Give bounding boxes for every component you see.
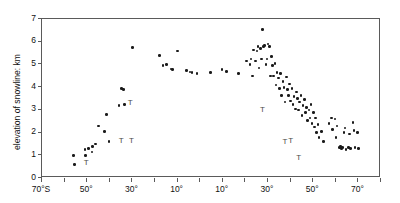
data-point: [317, 123, 320, 126]
data-point: [263, 44, 266, 47]
data-point: [352, 121, 355, 124]
data-point: [269, 75, 272, 78]
data-point: [158, 54, 161, 57]
tee-marker: T: [288, 137, 293, 145]
tee-marker: T: [84, 159, 89, 167]
data-point: [331, 128, 334, 131]
data-point: [292, 103, 295, 106]
data-point: [165, 63, 168, 66]
data-point: [270, 55, 273, 58]
x-tick: [357, 178, 358, 182]
data-point: [103, 130, 106, 133]
data-point: [318, 136, 321, 139]
data-point: [322, 140, 325, 143]
data-point: [171, 68, 174, 71]
x-tick: [312, 178, 313, 182]
tee-marker: T: [129, 137, 134, 145]
x-tick: [244, 178, 245, 182]
data-point: [252, 49, 255, 52]
data-point: [294, 108, 297, 111]
data-point: [282, 80, 285, 83]
x-tick: [267, 178, 268, 182]
data-point: [123, 103, 126, 106]
plot-frame: [41, 18, 380, 177]
x-tick: [177, 178, 178, 182]
tee-marker: T: [128, 99, 133, 107]
data-point: [122, 88, 125, 91]
x-tick: [199, 178, 200, 182]
data-point: [288, 83, 291, 86]
x-tick: [86, 178, 87, 182]
data-point: [320, 130, 323, 133]
x-tick-label: 70°S: [27, 184, 55, 194]
snowline-latitude-scatter-figure: elevation of snowline: km 01234567 70°S5…: [0, 0, 400, 203]
y-tick: [38, 132, 42, 133]
y-tick: [38, 41, 42, 42]
x-tick-label: 30°: [117, 184, 145, 194]
x-tick-label: 70°: [343, 184, 371, 194]
data-point: [118, 104, 121, 107]
x-tick: [41, 178, 42, 182]
data-point: [221, 68, 224, 71]
data-point: [314, 117, 317, 120]
data-point: [353, 129, 356, 132]
data-point: [335, 136, 338, 139]
x-tick-label: 10°: [208, 184, 236, 194]
data-point: [287, 94, 290, 97]
data-point: [306, 119, 309, 122]
data-point: [312, 111, 315, 114]
data-point: [108, 140, 111, 143]
data-point: [296, 97, 299, 100]
data-point: [261, 28, 264, 31]
y-tick: [38, 154, 42, 155]
y-tick: [38, 109, 42, 110]
data-point: [259, 47, 262, 50]
x-tick-label: 30°: [253, 184, 281, 194]
x-tick: [335, 178, 336, 182]
data-point: [279, 72, 282, 75]
y-tick-label: 4: [27, 81, 36, 91]
data-point: [97, 125, 100, 128]
x-tick: [290, 178, 291, 182]
data-point: [209, 71, 212, 74]
y-tick-label: 2: [27, 126, 36, 136]
data-point: [94, 143, 97, 146]
x-tick: [109, 178, 110, 182]
y-tick-label: 1: [27, 149, 36, 159]
x-tick-label: 10°: [163, 184, 191, 194]
data-point: [105, 113, 108, 116]
data-point: [72, 154, 75, 157]
data-point: [283, 86, 286, 89]
tee-marker: T: [283, 138, 288, 146]
y-tick-label: 6: [27, 35, 36, 45]
y-tick: [38, 63, 42, 64]
x-tick: [380, 178, 381, 182]
data-point: [343, 131, 346, 134]
data-point: [265, 63, 268, 66]
y-tick-label: 0: [27, 172, 36, 182]
x-tick: [64, 178, 65, 182]
data-point: [356, 131, 359, 134]
data-point: [260, 58, 263, 61]
data-point: [315, 131, 318, 134]
data-point: [185, 69, 188, 72]
data-point: [285, 76, 288, 79]
data-point: [300, 94, 303, 97]
y-tick-label: 3: [27, 103, 36, 113]
data-point: [295, 91, 298, 94]
data-point: [191, 71, 194, 74]
data-point: [330, 117, 333, 120]
data-point: [286, 88, 289, 91]
data-point: [73, 163, 76, 166]
data-point: [87, 147, 90, 150]
data-point: [291, 87, 294, 90]
tee-marker: T: [296, 154, 301, 162]
y-tick-label: 7: [27, 13, 36, 23]
data-point: [84, 154, 87, 157]
data-point: [304, 111, 307, 114]
tee-marker: T: [260, 106, 265, 114]
data-point: [310, 103, 313, 106]
data-point: [268, 45, 271, 48]
tee-marker: T: [119, 137, 124, 145]
data-point: [280, 94, 283, 97]
